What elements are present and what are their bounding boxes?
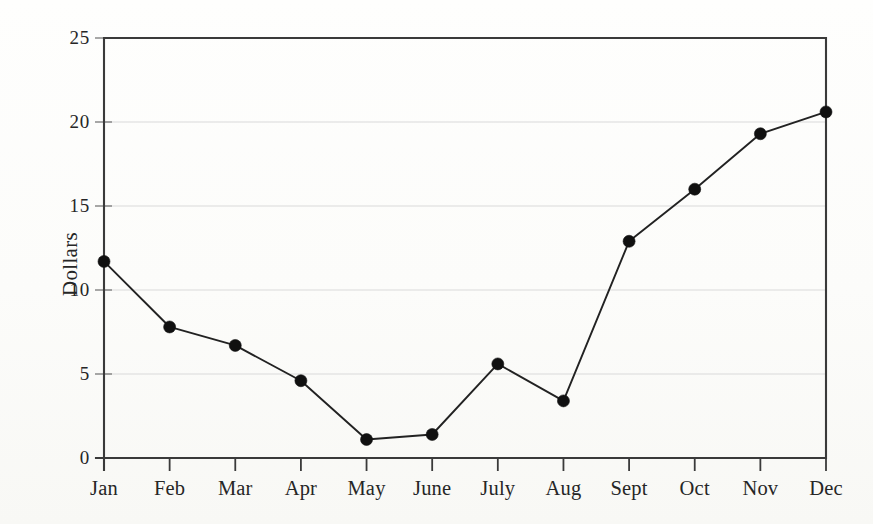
data-point-marker: [164, 321, 176, 333]
x-tick-label-feb: Feb: [154, 477, 185, 500]
x-tick-label-dec: Dec: [809, 477, 843, 500]
data-point-marker: [689, 183, 701, 195]
x-tick-label-aug: Aug: [546, 477, 582, 500]
x-tick-label-apr: Apr: [285, 477, 317, 500]
x-tick-label-sept: Sept: [610, 477, 647, 500]
data-point-marker: [557, 395, 569, 407]
gridlines: [104, 122, 826, 374]
y-tick-label-5: 5: [46, 363, 90, 385]
y-tick-label-0: 0: [46, 447, 90, 469]
y-tick-label-15: 15: [46, 195, 90, 217]
axis-frame: [96, 38, 826, 470]
data-point-marker: [754, 128, 766, 140]
data-point-marker: [229, 339, 241, 351]
x-tick-label-oct: Oct: [680, 477, 710, 500]
data-point-marker: [820, 106, 832, 118]
x-tick-label-may: May: [347, 477, 385, 500]
data-point-marker: [426, 428, 438, 440]
series-markers: [98, 106, 832, 446]
y-tick-label-20: 20: [46, 111, 90, 133]
series-line-dollars: [104, 112, 826, 440]
data-point-marker: [492, 358, 504, 370]
line-chart-figure: Dollars JanFebMarAprMayJuneJulyAugSeptOc…: [0, 0, 873, 524]
plot-area: [0, 0, 873, 524]
data-point-marker: [98, 255, 110, 267]
x-tick-label-july: July: [480, 477, 515, 500]
y-tick-label-10: 10: [46, 279, 90, 301]
x-tick-label-june: June: [413, 477, 451, 500]
y-tick-label-25: 25: [46, 27, 90, 49]
data-point-marker: [295, 375, 307, 387]
x-axis-ticks: [104, 459, 826, 471]
data-point-marker: [361, 434, 373, 446]
data-point-marker: [623, 235, 635, 247]
x-tick-label-nov: Nov: [742, 477, 778, 500]
x-tick-label-jan: Jan: [90, 477, 118, 500]
x-tick-label-mar: Mar: [218, 477, 253, 500]
